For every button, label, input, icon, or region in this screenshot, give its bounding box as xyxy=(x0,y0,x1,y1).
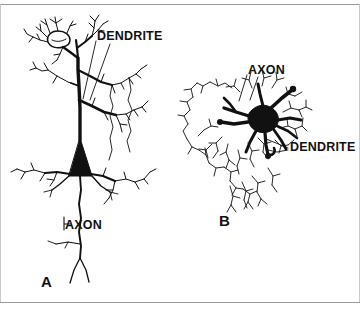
label-dendrite-panel-a: DENDRITE xyxy=(97,29,163,43)
process-bouton-down xyxy=(265,153,271,159)
neuron-illustration xyxy=(0,0,360,314)
label-axon-panel-a: AXON xyxy=(65,218,102,232)
neuron-figure: DENDRITE AXON AXON DENDRITE A B xyxy=(0,0,360,314)
tuft-branches-left xyxy=(24,17,76,64)
apical-tuft-inner-line xyxy=(52,39,66,41)
apical-tuft-loop xyxy=(48,31,70,48)
label-dendrite-panel-b: DENDRITE xyxy=(290,140,356,154)
dendrite-long-descending-right xyxy=(109,85,113,160)
dendrite-long-descending-right-2 xyxy=(127,78,132,152)
soma-stellate xyxy=(248,105,278,132)
primary-process-up xyxy=(258,84,263,106)
label-axon-panel-b: AXON xyxy=(248,63,285,77)
axon-terminal-branch-right xyxy=(80,258,89,282)
process-bouton-up-right xyxy=(290,86,296,92)
axon-label-leader-b xyxy=(239,75,258,101)
panel-label-a: A xyxy=(41,273,52,290)
basal-right-twigs xyxy=(103,168,156,204)
soma-pyramidal xyxy=(69,138,92,176)
basal-dendrite-left-1 xyxy=(45,172,70,174)
primary-process-right xyxy=(278,118,301,120)
oblique-dendrite-upper-right xyxy=(78,70,112,85)
oblique-dendrite-right-twigs xyxy=(92,98,148,132)
oblique-upper-right-twigs xyxy=(101,65,147,93)
axon-main xyxy=(79,176,81,258)
primary-process-left-lower xyxy=(221,122,248,124)
apical-branch-left xyxy=(63,47,78,58)
primary-process-up-right xyxy=(271,90,292,108)
axon-terminal-branch-left xyxy=(70,258,80,283)
bottom-rule-divider xyxy=(0,302,360,303)
oblique-dendrite-right xyxy=(79,100,116,115)
basal-left-twigs xyxy=(11,163,57,186)
primary-process-down xyxy=(265,133,268,155)
panel-a-pyramidal-neuron xyxy=(11,15,156,283)
panel-label-b: B xyxy=(219,212,230,229)
dendrite-label-leader-a xyxy=(83,41,110,100)
basal-left-twigs-2 xyxy=(44,190,52,197)
process-bouton-left xyxy=(217,119,223,125)
